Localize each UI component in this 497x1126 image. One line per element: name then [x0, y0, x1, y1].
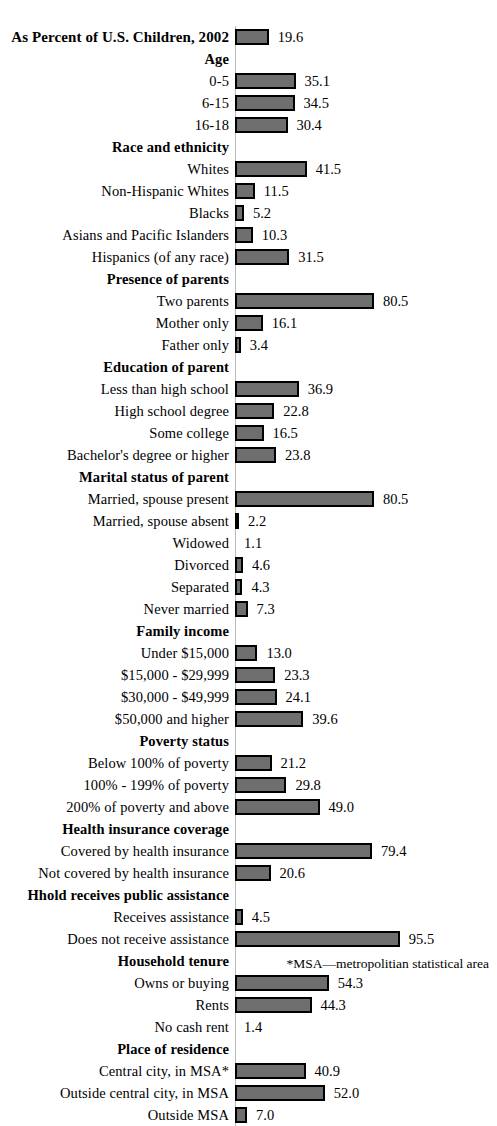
chart-row: Married, spouse absent2.2: [0, 510, 497, 532]
chart-row: $15,000 - $29,99923.3: [0, 664, 497, 686]
row-label: Under $15,000: [0, 646, 235, 661]
bar-value-label: 49.0: [320, 800, 354, 815]
bar-value-label: 16.5: [263, 426, 297, 441]
row-plot-area: [235, 136, 497, 158]
row-plot-area: [235, 884, 497, 906]
bar: [235, 227, 253, 243]
bar: [235, 29, 269, 45]
row-plot-area: [235, 268, 497, 290]
bar: [235, 645, 257, 661]
bar: [235, 777, 286, 793]
row-plot-area: 11.5: [235, 180, 497, 202]
row-plot-area: 34.5: [235, 92, 497, 114]
row-plot-area: 35.1: [235, 70, 497, 92]
bar-value-label: 1.1: [235, 536, 262, 551]
chart-row: 200% of poverty and above49.0: [0, 796, 497, 818]
bar: [235, 799, 320, 815]
row-plot-area: 23.3: [235, 664, 497, 686]
chart-row: Married, spouse present80.5: [0, 488, 497, 510]
row-label: Less than high school: [0, 382, 235, 397]
bar: [235, 1063, 306, 1079]
chart-row: Some college16.5: [0, 422, 497, 444]
group-header-label: Age: [0, 52, 235, 67]
chart-row: Outside MSA7.0: [0, 1104, 497, 1126]
chart-row: Outside central city, in MSA52.0: [0, 1082, 497, 1104]
chart-row: No cash rent1.4: [0, 1016, 497, 1038]
bar-value-label: 11.5: [255, 184, 289, 199]
bar: [235, 183, 255, 199]
bar-value-label: 24.1: [277, 690, 311, 705]
row-label: 6-15: [0, 96, 235, 111]
bar-value-label: 2.2: [239, 514, 266, 529]
row-label: 100% - 199% of poverty: [0, 778, 235, 793]
row-plot-area: 4.5: [235, 906, 497, 928]
chart-group-header-row: Race and ethnicity: [0, 136, 497, 158]
row-plot-area: 20.6: [235, 862, 497, 884]
row-plot-area: 16.1: [235, 312, 497, 334]
bar-value-label: 41.5: [307, 162, 341, 177]
chart-row: Owns or buying54.3: [0, 972, 497, 994]
chart-title-row: As Percent of U.S. Children, 200219.6: [0, 26, 497, 48]
bar-value-label: 95.5: [400, 932, 434, 947]
chart-row: Less than high school36.9: [0, 378, 497, 400]
bar: [235, 161, 307, 177]
group-header-label: Presence of parents: [0, 272, 235, 287]
chart-row: Bachelor's degree or higher23.8: [0, 444, 497, 466]
group-header-label: Household tenure: [0, 954, 235, 969]
row-plot-area: 7.0: [235, 1104, 497, 1126]
bar: [235, 293, 374, 309]
bar: [235, 315, 263, 331]
bar-value-label: 1.4: [235, 1020, 262, 1035]
chart-row: Not covered by health insurance20.6: [0, 862, 497, 884]
row-label: Some college: [0, 426, 235, 441]
row-plot-area: 30.4: [235, 114, 497, 136]
row-label: Central city, in MSA*: [0, 1064, 235, 1079]
bar-value-label: 23.3: [275, 668, 309, 683]
row-label: Asians and Pacific Islanders: [0, 228, 235, 243]
chart-row: Never married7.3: [0, 598, 497, 620]
bar: [235, 755, 272, 771]
row-plot-area: [235, 730, 497, 752]
bar: [235, 491, 374, 507]
bar: [235, 403, 274, 419]
row-plot-area: 54.3: [235, 972, 497, 994]
group-header-label: Marital status of parent: [0, 470, 235, 485]
chart-row: Under $15,00013.0: [0, 642, 497, 664]
chart-row: Hispanics (of any race)31.5: [0, 246, 497, 268]
bar-value-label: 31.5: [289, 250, 323, 265]
row-label: Separated: [0, 580, 235, 595]
bar: [235, 249, 289, 265]
row-plot-area: 80.5: [235, 488, 497, 510]
row-label: Never married: [0, 602, 235, 617]
bar: [235, 931, 400, 947]
row-plot-area: 10.3: [235, 224, 497, 246]
chart-row: Widowed1.1: [0, 532, 497, 554]
bar-value-label: 80.5: [374, 294, 408, 309]
bar-value-label: 52.0: [325, 1086, 359, 1101]
bar: [235, 909, 243, 925]
row-plot-area: 40.9: [235, 1060, 497, 1082]
row-plot-area: 13.0: [235, 642, 497, 664]
row-label: Receives assistance: [0, 910, 235, 925]
bar-value-label: 23.8: [276, 448, 310, 463]
bar-value-label: 79.4: [372, 844, 406, 859]
row-label: Married, spouse present: [0, 492, 235, 507]
bar-value-label: 30.4: [287, 118, 321, 133]
bar: [235, 95, 295, 111]
row-label: Covered by health insurance: [0, 844, 235, 859]
row-plot-area: 1.1: [235, 532, 497, 554]
chart-group-header-row: Presence of parents: [0, 268, 497, 290]
row-plot-area: 7.3: [235, 598, 497, 620]
row-plot-area: 36.9: [235, 378, 497, 400]
row-label: Whites: [0, 162, 235, 177]
row-label: Mother only: [0, 316, 235, 331]
bar: [235, 557, 243, 573]
bar-value-label: 3.4: [241, 338, 268, 353]
row-plot-area: 44.3: [235, 994, 497, 1016]
bar: [235, 667, 275, 683]
row-label: Rents: [0, 998, 235, 1013]
bar-value-label: 40.9: [306, 1064, 340, 1079]
row-plot-area: 19.6: [235, 26, 497, 48]
group-header-label: Hhold receives public assistance: [0, 888, 235, 903]
bar: [235, 1085, 325, 1101]
